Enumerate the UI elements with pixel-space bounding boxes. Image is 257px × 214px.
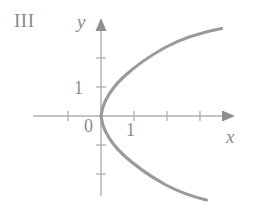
- x-axis-label: x: [226, 127, 234, 146]
- x-tick-label-1: 1: [126, 121, 135, 139]
- parabola-figure: III y x 0 1 1: [0, 0, 257, 214]
- y-tick-label-1: 1: [74, 79, 83, 97]
- x-axis-arrowhead: [222, 111, 235, 122]
- parabola-upper-branch: [101, 29, 222, 117]
- parabola-lower-branch: [101, 116, 207, 200]
- y-axis-arrowhead: [96, 18, 107, 31]
- origin-label: 0: [84, 117, 93, 135]
- panel-label: III: [14, 11, 34, 30]
- parabola-chart-canvas: [0, 0, 257, 214]
- y-axis-label: y: [77, 12, 85, 31]
